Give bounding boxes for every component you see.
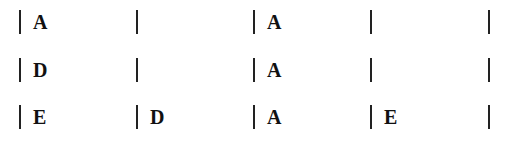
grid-cell: A xyxy=(19,10,129,34)
grid-cell: A xyxy=(253,58,363,82)
grid-cell: A xyxy=(253,105,363,129)
cell-letter: A xyxy=(267,11,281,33)
row-end-divider xyxy=(488,58,490,82)
grid-cell xyxy=(136,10,246,34)
cell-divider xyxy=(253,58,255,82)
row-end-divider xyxy=(488,10,490,34)
cell-divider xyxy=(370,105,372,129)
cell-divider xyxy=(253,105,255,129)
cell-divider xyxy=(370,10,372,34)
cell-divider xyxy=(136,105,138,129)
cell-letter: E xyxy=(384,106,397,128)
grid-cell xyxy=(136,58,246,82)
grid-cell: E xyxy=(19,105,129,129)
cell-divider xyxy=(136,58,138,82)
cell-divider xyxy=(136,10,138,34)
row-end-divider xyxy=(488,105,490,129)
cell-letter: A xyxy=(33,11,47,33)
cell-letter: E xyxy=(33,106,46,128)
cell-letter: A xyxy=(267,106,281,128)
grid-cell xyxy=(370,58,480,82)
cell-letter: A xyxy=(267,59,281,81)
cell-divider xyxy=(19,105,21,129)
cell-divider xyxy=(370,58,372,82)
grid-cell: E xyxy=(370,105,480,129)
cell-letter: D xyxy=(150,106,164,128)
cell-divider xyxy=(19,58,21,82)
cell-letter: D xyxy=(33,59,47,81)
cell-divider xyxy=(19,10,21,34)
grid-cell: D xyxy=(136,105,246,129)
cell-divider xyxy=(253,10,255,34)
grid-cell: A xyxy=(253,10,363,34)
grid-cell xyxy=(370,10,480,34)
grid-cell: D xyxy=(19,58,129,82)
